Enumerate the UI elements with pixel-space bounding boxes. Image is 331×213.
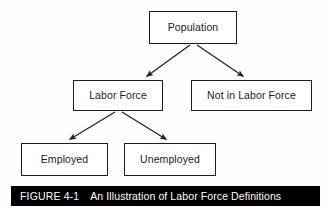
figure-container: Population Labor Force Not in Labor Forc… — [0, 0, 331, 213]
figure-caption-inner: FIGURE 4-1 An Illustration of Labor Forc… — [11, 190, 281, 202]
node-unemployed: Unemployed — [124, 143, 216, 176]
node-labor-force-label: Labor Force — [89, 90, 147, 101]
node-population-label: Population — [168, 22, 219, 33]
edge-labor-force-to-unemployed — [122, 112, 167, 140]
node-not-in-labor-force: Not in Labor Force — [191, 80, 312, 111]
figure-caption-label: FIGURE 4-1 — [20, 190, 79, 202]
labor-force-flowchart: Population Labor Force Not in Labor Forc… — [0, 0, 331, 182]
node-population: Population — [149, 11, 237, 44]
node-unemployed-label: Unemployed — [140, 154, 200, 165]
node-not-in-labor-force-label: Not in Labor Force — [207, 90, 296, 101]
edge-population-to-not-in-labor-force — [197, 45, 244, 77]
figure-caption-title: An Illustration of Labor Force Definitio… — [79, 190, 281, 202]
edge-labor-force-to-employed — [70, 112, 116, 140]
node-labor-force: Labor Force — [73, 80, 163, 111]
edge-population-to-labor-force — [147, 45, 191, 77]
node-employed: Employed — [21, 143, 108, 176]
node-employed-label: Employed — [41, 154, 89, 165]
figure-caption-bar: FIGURE 4-1 An Illustration of Labor Forc… — [11, 186, 320, 206]
